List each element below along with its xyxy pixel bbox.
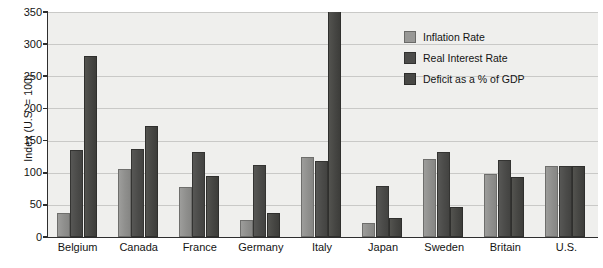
bar <box>376 186 389 237</box>
bar <box>437 152 450 238</box>
y-axis-tick-label: 350 <box>24 7 42 18</box>
legend-item: Inflation Rate <box>404 26 584 47</box>
y-axis-tick-label: 200 <box>24 103 42 114</box>
bar <box>253 165 266 237</box>
bar <box>192 152 205 237</box>
y-axis-tick-mark <box>43 108 48 110</box>
x-axis-tick-labels: BelgiumCanadaFranceGermanyItalyJapanSwed… <box>47 241 597 263</box>
y-axis-tick-label: 100 <box>24 167 42 178</box>
bar <box>70 150 83 237</box>
bar-group <box>362 12 402 237</box>
x-axis-tick-label: U.S. <box>536 241 597 254</box>
bar <box>389 218 402 237</box>
x-axis-tick-label: Britain <box>475 241 536 254</box>
x-axis-tick-label: Canada <box>108 241 169 254</box>
legend-item-label: Deficit as a % of GDP <box>423 73 525 85</box>
y-axis-tick-label: 300 <box>24 39 42 50</box>
bar <box>484 174 497 237</box>
x-axis-tick-label: Belgium <box>47 241 108 254</box>
y-axis-tick-label: 0 <box>36 232 42 243</box>
bar-group <box>57 12 97 237</box>
legend-item-label: Real Interest Rate <box>423 52 508 64</box>
chart-legend: Inflation RateReal Interest RateDeficit … <box>404 26 584 89</box>
x-axis-tick-label: Italy <box>291 241 352 254</box>
legend-item: Real Interest Rate <box>404 47 584 68</box>
bar <box>57 213 70 237</box>
bar <box>498 160 511 237</box>
x-axis-tick-label: Germany <box>230 241 291 254</box>
bar-group <box>301 12 341 237</box>
y-axis-tick-label: 50 <box>30 199 42 210</box>
y-axis-tick-mark <box>43 140 48 142</box>
bar-group <box>179 12 219 237</box>
bar <box>545 166 558 237</box>
bar <box>179 187 192 237</box>
bar <box>206 176 219 237</box>
bar <box>362 223 375 237</box>
bar-group <box>240 12 280 237</box>
legend-item-label: Inflation Rate <box>423 31 485 43</box>
legend-item: Deficit as a % of GDP <box>404 68 584 89</box>
bar <box>511 177 524 237</box>
bar <box>301 157 314 237</box>
y-axis-tick-label: 150 <box>24 135 42 146</box>
bar <box>572 166 585 237</box>
y-axis-tick-mark <box>43 172 48 174</box>
y-axis-tick-labels: 350300250200150100500 <box>6 0 42 268</box>
bar <box>450 207 463 237</box>
bar-chart: Index (U.S. = 100) 350300250200150100500… <box>0 0 603 268</box>
y-axis-tick-mark <box>43 204 48 206</box>
legend-swatch-icon <box>404 31 416 43</box>
bar-group <box>118 12 158 237</box>
y-axis-tick-label: 250 <box>24 71 42 82</box>
bar <box>315 161 328 237</box>
y-axis-tick-mark <box>43 75 48 77</box>
bar <box>328 12 341 237</box>
bar <box>559 166 572 237</box>
bar <box>423 159 436 237</box>
x-axis-tick-label: Japan <box>353 241 414 254</box>
bar <box>131 149 144 237</box>
bar <box>84 56 97 237</box>
y-axis-tick-mark <box>43 43 48 45</box>
x-axis-tick-label: Sweden <box>414 241 475 254</box>
bar <box>118 169 131 237</box>
y-axis-tick-mark <box>43 236 48 238</box>
legend-swatch-icon <box>404 52 416 64</box>
bar <box>145 126 158 237</box>
bar <box>240 220 253 237</box>
x-axis-tick-label: France <box>169 241 230 254</box>
bar <box>267 213 280 237</box>
legend-swatch-icon <box>404 73 416 85</box>
y-axis-tick-mark <box>43 11 48 13</box>
